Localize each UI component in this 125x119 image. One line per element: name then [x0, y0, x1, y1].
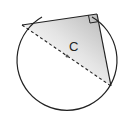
circle-diagram: C	[0, 0, 125, 119]
shaded-triangle	[22, 14, 111, 86]
center-point	[66, 55, 69, 58]
center-label: C	[69, 39, 78, 54]
